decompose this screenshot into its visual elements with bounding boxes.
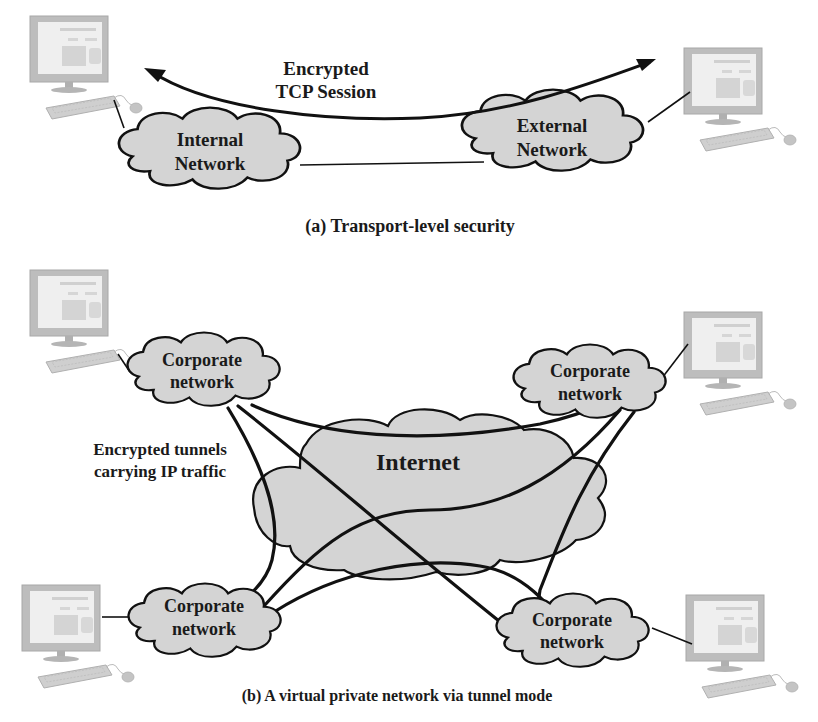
corporate-bottom-right-label-2: network xyxy=(540,632,604,652)
panel-b-caption: (b) A virtual private network via tunnel… xyxy=(242,687,553,705)
computer-top-left xyxy=(30,270,142,373)
corporate-top-right-label-2: network xyxy=(558,384,622,404)
session-label-1: Encrypted xyxy=(283,58,369,79)
network-diagram: Internal Network External Network Encryp… xyxy=(0,0,818,722)
session-label-2: TCP Session xyxy=(276,81,377,102)
corporate-bottom-left-label-1: Corporate xyxy=(164,596,244,616)
panel-a-caption: (a) Transport-level security xyxy=(305,216,514,237)
wire-internal-external xyxy=(300,162,484,165)
internal-network-label-1: Internal xyxy=(177,129,244,150)
panel-a-transport-level-security: Internal Network External Network Encryp… xyxy=(30,16,796,237)
internet-label: Internet xyxy=(376,449,460,475)
corporate-top-left-label-1: Corporate xyxy=(162,350,242,370)
computer-bottom-left xyxy=(22,585,134,688)
external-network-label-2: Network xyxy=(517,139,588,160)
computer-left xyxy=(30,16,142,119)
corporate-cloud-top-right xyxy=(514,344,666,417)
computer-right xyxy=(684,48,796,151)
external-network-label-1: External xyxy=(517,115,588,136)
corporate-bottom-right-label-1: Corporate xyxy=(532,610,612,630)
corporate-bottom-left-label-2: network xyxy=(172,619,236,639)
internal-network-label-2: Network xyxy=(175,153,246,174)
corporate-top-left-label-2: network xyxy=(170,372,234,392)
corporate-top-right-label-1: Corporate xyxy=(550,361,630,381)
computer-top-right xyxy=(684,312,796,415)
corporate-cloud-bottom-right xyxy=(497,593,649,666)
arrowhead-right-icon xyxy=(636,59,656,71)
panel-b-vpn-tunnel-mode: Internet Corporate network Corporate net… xyxy=(22,270,798,705)
tunnel-label-1: Encrypted tunnels xyxy=(93,440,227,459)
tunnel-label-2: carrying IP traffic xyxy=(94,462,227,481)
computer-bottom-right xyxy=(686,595,798,698)
